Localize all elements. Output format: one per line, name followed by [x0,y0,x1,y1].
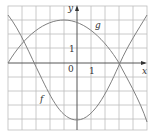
origin-label: 0 [68,64,74,74]
curve-g [8,20,147,122]
x-axis-arrow-icon [141,61,147,65]
curve-f-label: f [39,94,45,104]
x-axis-label: x [142,66,147,76]
grid [8,6,147,130]
curve-f [8,15,147,120]
curves [8,15,147,122]
curve-g-label: g [95,20,101,30]
y-tick-one-label: 1 [69,44,75,54]
function-graph: y x 0 1 1 g f [0,0,150,137]
x-tick-one-label: 1 [89,66,95,76]
y-axis-label: y [67,3,74,13]
axes [8,8,145,130]
